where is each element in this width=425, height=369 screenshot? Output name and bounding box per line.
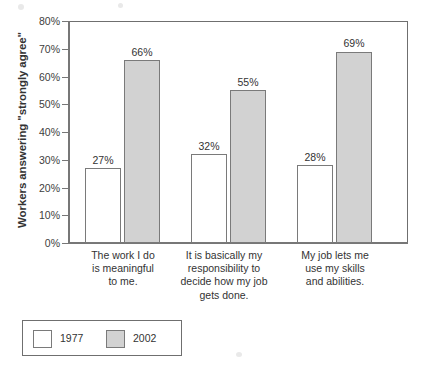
legend-label-1977: 1977 bbox=[60, 332, 83, 344]
bar-2002-group-1[interactable] bbox=[124, 60, 160, 243]
bar-value-1977-group-3: 28% bbox=[297, 152, 333, 163]
y-tick-label-70: 70% bbox=[24, 44, 60, 54]
y-tick-label-70-wrap: 70% bbox=[20, 44, 60, 54]
bar-value-1977-group-1: 27% bbox=[85, 155, 121, 166]
category-label-2-line-3: decide how my job bbox=[168, 275, 280, 288]
category-label-1-line-1: The work I do bbox=[72, 249, 174, 262]
y-tick-label-40-wrap: 40% bbox=[20, 127, 60, 137]
category-label-3: My job lets me use my skills and abiliti… bbox=[284, 249, 386, 289]
y-tick-0 bbox=[62, 243, 68, 244]
legend-swatch-2002 bbox=[106, 330, 125, 348]
category-label-1-line-2: is meaningful bbox=[72, 262, 174, 275]
y-tick-label-0-wrap: 0% bbox=[20, 238, 60, 248]
y-tick-label-20: 20% bbox=[24, 183, 60, 193]
category-label-2-line-4: gets done. bbox=[168, 289, 280, 302]
y-tick-70 bbox=[62, 49, 68, 50]
category-label-3-line-3: and abilities. bbox=[284, 275, 386, 288]
bar-value-1977-group-2: 32% bbox=[191, 141, 227, 152]
bar-2002-group-3[interactable] bbox=[336, 52, 372, 244]
bar-1977-group-2[interactable] bbox=[191, 154, 227, 243]
category-label-1-line-3: to me. bbox=[72, 275, 174, 288]
y-tick-label-10: 10% bbox=[24, 210, 60, 220]
y-tick-label-50-wrap: 50% bbox=[20, 99, 60, 109]
y-tick-10 bbox=[62, 215, 68, 216]
y-tick-80 bbox=[62, 21, 68, 22]
bar-1977-group-1[interactable] bbox=[85, 168, 121, 243]
y-tick-label-20-wrap: 20% bbox=[20, 183, 60, 193]
bar-value-2002-group-1: 66% bbox=[124, 47, 160, 58]
category-label-2-line-2: responsibility to bbox=[168, 262, 280, 275]
legend-item-1977[interactable]: 1977 bbox=[33, 328, 93, 350]
y-tick-label-30: 30% bbox=[24, 155, 60, 165]
legend: 1977 2002 bbox=[22, 320, 182, 356]
y-tick-label-40: 40% bbox=[24, 127, 60, 137]
y-axis-line bbox=[68, 21, 70, 244]
y-tick-40 bbox=[62, 132, 68, 133]
y-tick-label-80: 80% bbox=[24, 16, 60, 26]
bar-value-2002-group-2: 55% bbox=[230, 77, 266, 88]
category-label-2-line-1: It is basically my bbox=[168, 249, 280, 262]
y-tick-60 bbox=[62, 77, 68, 78]
y-tick-20 bbox=[62, 188, 68, 189]
y-tick-label-50: 50% bbox=[24, 99, 60, 109]
y-tick-30 bbox=[62, 160, 68, 161]
category-label-3-line-1: My job lets me bbox=[284, 249, 386, 262]
legend-swatch-1977 bbox=[33, 330, 52, 348]
y-tick-label-60: 60% bbox=[24, 72, 60, 82]
category-label-3-line-2: use my skills bbox=[284, 262, 386, 275]
y-tick-label-0: 0% bbox=[24, 238, 60, 248]
legend-item-2002[interactable]: 2002 bbox=[106, 328, 170, 350]
chart-root: Workers answering "strongly agree" 80% 7… bbox=[0, 0, 425, 369]
scan-speckle bbox=[118, 3, 123, 8]
y-tick-50 bbox=[62, 104, 68, 105]
scan-speckle bbox=[236, 352, 242, 357]
y-tick-label-80-wrap: 80% bbox=[20, 16, 60, 26]
y-tick-label-30-wrap: 30% bbox=[20, 155, 60, 165]
legend-label-2002: 2002 bbox=[133, 332, 156, 344]
bar-2002-group-2[interactable] bbox=[230, 90, 266, 243]
scan-speckle bbox=[18, 4, 24, 10]
y-tick-label-10-wrap: 10% bbox=[20, 210, 60, 220]
category-label-2: It is basically my responsibility to dec… bbox=[168, 249, 280, 302]
bar-value-2002-group-3: 69% bbox=[336, 38, 372, 49]
bar-1977-group-3[interactable] bbox=[297, 165, 333, 243]
category-label-1: The work I do is meaningful to me. bbox=[72, 249, 174, 289]
y-tick-label-60-wrap: 60% bbox=[20, 72, 60, 82]
